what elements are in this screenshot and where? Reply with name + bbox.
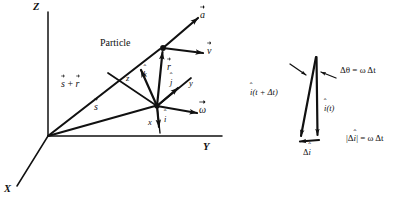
a-vector	[163, 18, 198, 48]
hat-accent-icon: ˆ	[308, 143, 311, 151]
a-label: a	[200, 10, 205, 20]
i-hat-glyph: iˆ	[354, 134, 357, 143]
delta-theta-right-pointer	[321, 72, 336, 78]
i-hat-t-plus-dt-argument: (t + Δt)	[252, 87, 277, 97]
vector-arrow-accent-icon	[167, 56, 171, 61]
vector-arrow-accent-icon	[61, 73, 65, 78]
s-vector	[48, 106, 155, 136]
i-hat-t-plus-dt-label: iˆ(t + Δt)	[250, 88, 278, 97]
local-x-axis-label: x	[148, 118, 152, 127]
y-axis-label: Y	[203, 142, 209, 153]
local-z-axis-label: z	[126, 74, 129, 83]
v-vector	[163, 48, 203, 53]
a-glyph: a	[200, 10, 205, 20]
s-glyph: s	[94, 102, 98, 112]
vector-arrow-accent-icon	[200, 4, 205, 9]
hat-accent-icon: ˆ	[250, 83, 253, 91]
r-vector	[157, 52, 163, 106]
k-hat-glyph: kˆ	[143, 70, 147, 79]
i-hat-glyph: iˆ	[250, 88, 252, 97]
z-axis-label: Z	[33, 2, 39, 13]
position-vectors	[48, 49, 160, 136]
s-plus-r-s-glyph: s	[61, 79, 65, 89]
vector-arrow-accent-icon	[199, 99, 206, 104]
delta-i-hat-label: Δiˆ	[303, 148, 311, 157]
v-label: v	[207, 46, 211, 56]
i-hat-label: iˆ	[164, 115, 166, 124]
vector-arrow-accent-icon	[207, 40, 211, 45]
vector-arrow-accent-icon	[76, 73, 80, 78]
hat-accent-icon: ˆ	[170, 73, 173, 81]
s-plus-r-plus-sign: +	[67, 78, 73, 89]
local-y-axis-label: y	[189, 79, 193, 88]
hat-accent-icon: ˆ	[353, 129, 356, 138]
vector-arrow-accent-icon	[94, 96, 98, 101]
omega-label: ω	[199, 105, 206, 115]
moving-frame-unit-vectors	[108, 52, 197, 133]
s-plus-r-vector	[48, 49, 160, 136]
omega-glyph: ω	[199, 105, 206, 115]
s-label: s	[94, 102, 98, 112]
particle-label: Particle	[100, 38, 131, 48]
j-hat-glyph: jˆ	[170, 78, 172, 87]
local-y-axis-line	[157, 78, 191, 106]
r-label: r	[167, 62, 171, 72]
r-glyph: r	[167, 62, 171, 72]
abs-close-and-rhs: | = ω Δt	[356, 133, 383, 143]
j-hat-label: jˆ	[170, 78, 172, 87]
i-hat-t-label: iˆ(t)	[324, 104, 334, 113]
i-hat-glyph: iˆ	[324, 104, 326, 113]
physics-figure: Z Y X Particle s + r s r a v ω z y x kˆ …	[0, 0, 409, 210]
delta-i-hat-vector	[300, 140, 319, 142]
v-glyph: v	[207, 46, 211, 56]
hat-accent-icon: ˆ	[324, 99, 327, 107]
unit-vector-rotation-triangle	[290, 57, 336, 142]
hat-accent-icon: ˆ	[164, 110, 167, 118]
delta-theta-equation-label: Δθ = ω Δt	[340, 66, 376, 75]
s-plus-r-label: s + r	[61, 79, 79, 89]
i-hat-glyph: iˆ	[308, 148, 310, 157]
particle-kinematics	[160, 18, 203, 53]
delta-i-magnitude-equation-label: |Δiˆ| = ω Δt	[346, 134, 383, 143]
i-hat-t-argument: (t)	[326, 103, 334, 113]
i-hat-t-vector	[317, 57, 318, 135]
delta-theta-left-pointer	[290, 64, 306, 75]
moving-frame-origin-node	[154, 103, 159, 108]
i-hat-t-plus-dt-vector	[301, 57, 316, 136]
k-hat-label: kˆ	[143, 70, 147, 79]
x-axis-label: X	[4, 184, 11, 195]
x-axis-line	[17, 136, 48, 186]
s-plus-r-r-glyph: r	[76, 79, 80, 89]
particle-dot	[160, 45, 166, 51]
hat-accent-icon: ˆ	[144, 65, 147, 73]
i-hat-glyph: iˆ	[164, 115, 166, 124]
